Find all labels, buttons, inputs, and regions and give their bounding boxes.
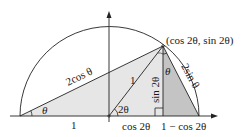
label-angle-theta-left: θ — [42, 104, 48, 116]
point-label: (cos 2θ, sin 2θ) — [166, 34, 234, 47]
label-sin-2theta: sin 2θ — [149, 77, 161, 103]
label-1-minus-cos-2theta: 1 − cos 2θ — [161, 120, 206, 132]
x-axis-arrow-icon — [211, 114, 218, 119]
label-radius: 1 — [130, 74, 136, 86]
y-axis-arrow-icon — [107, 11, 112, 18]
unit-circle-diagram: (cos 2θ, sin 2θ) 2cos θ 1 sin 2θ 2sin θ … — [0, 0, 250, 137]
label-angle-2theta: 2θ — [118, 103, 129, 115]
label-angle-theta-top: θ — [165, 65, 171, 77]
label-base-1: 1 — [71, 119, 77, 131]
label-cos-2theta: cos 2θ — [122, 120, 150, 132]
